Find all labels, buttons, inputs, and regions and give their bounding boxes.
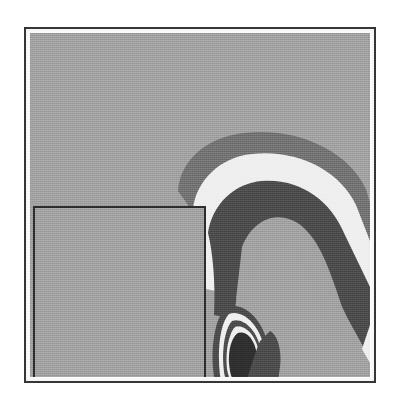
figure-page	[0, 0, 405, 409]
contour-plot-svg	[30, 33, 370, 377]
contour-plot-area	[30, 33, 370, 377]
inset-rectangle[interactable]	[34, 207, 205, 377]
